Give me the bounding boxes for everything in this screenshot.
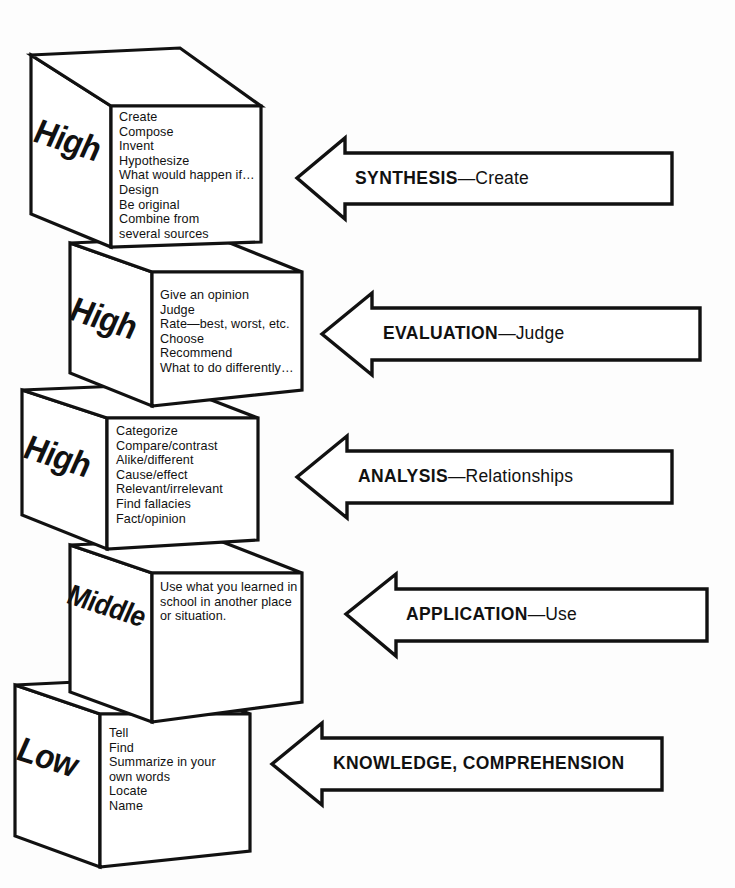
arrow-label-analysis-descriptor: Relationships — [466, 466, 574, 486]
arrow-label-knowledge-name: KNOWLEDGE, COMPREHENSION — [333, 753, 625, 773]
arrow-label-synthesis-name: SYNTHESIS — [355, 168, 458, 188]
cube-knowledge-items: Tell Find Summarize in your own words Lo… — [109, 726, 249, 814]
arrow-label-evaluation: EVALUATION—Judge — [383, 323, 564, 344]
arrow-label-synthesis-dash: — — [458, 168, 476, 188]
arrow-label-knowledge: KNOWLEDGE, COMPREHENSION — [333, 753, 625, 774]
arrow-label-evaluation-descriptor: Judge — [516, 323, 565, 343]
arrow-label-application-dash: — — [528, 604, 546, 624]
cube-application — [70, 539, 302, 722]
cube-application-left-face — [70, 545, 152, 722]
arrow-label-analysis: ANALYSIS—Relationships — [358, 466, 573, 487]
cube-application-items: Use what you learned in school in anothe… — [160, 580, 306, 624]
cube-synthesis-items: Create Compose Invent Hypothesize What w… — [119, 110, 259, 241]
arrow-label-synthesis: SYNTHESIS—Create — [355, 168, 529, 189]
arrow-label-application: APPLICATION—Use — [406, 604, 577, 625]
arrow-label-application-name: APPLICATION — [406, 604, 528, 624]
arrow-label-application-descriptor: Use — [545, 604, 577, 624]
arrow-label-synthesis-descriptor: Create — [475, 168, 529, 188]
cube-analysis-items: Categorize Compare/contrast Alike/differ… — [116, 424, 262, 526]
arrow-label-analysis-dash: — — [448, 466, 466, 486]
diagram-canvas: Create Compose Invent Hypothesize What w… — [0, 0, 735, 888]
arrow-label-analysis-name: ANALYSIS — [358, 466, 448, 486]
arrow-label-evaluation-name: EVALUATION — [383, 323, 498, 343]
arrow-label-evaluation-dash: — — [498, 323, 516, 343]
cube-evaluation-items: Give an opinion Judge Rate—best, worst, … — [160, 288, 306, 376]
